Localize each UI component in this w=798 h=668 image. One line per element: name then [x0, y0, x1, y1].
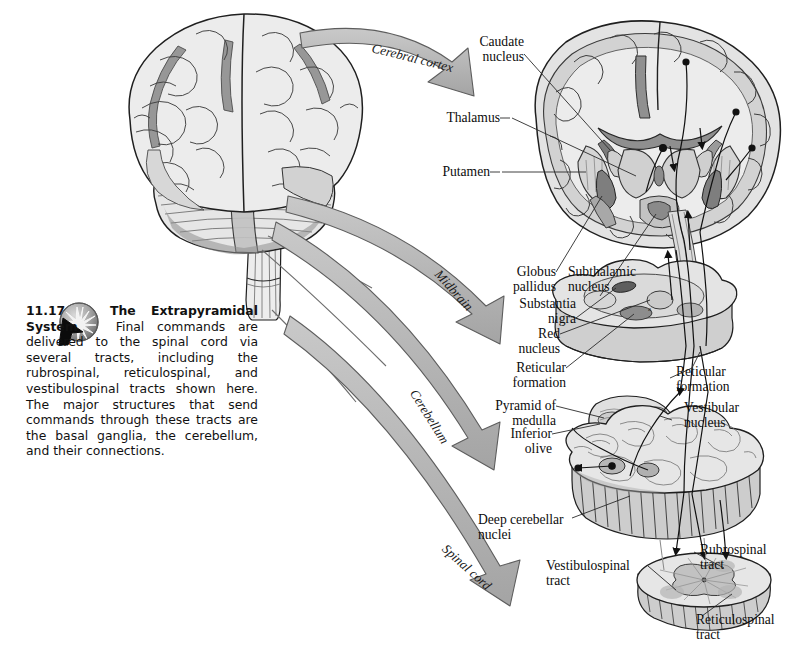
label-thalamus: Thalamus	[392, 110, 500, 125]
figure-number: 11.17	[26, 303, 65, 318]
label-reticular-formation-midbrain: Reticular formation	[468, 360, 566, 390]
label-vestibulospinal-tract: Vestibulospinal tract	[546, 558, 630, 588]
label-globus-pallidus: Globus pallidus	[470, 264, 556, 294]
label-reticular-formation-medulla: Reticular formation	[676, 364, 730, 394]
reticulospinal-tract-region	[718, 585, 742, 599]
figure-caption: 11.17 The Extrapyramidal System Final co…	[26, 303, 258, 459]
label-inferior-olive: Inferior olive	[468, 426, 552, 456]
label-substantia-nigra: Substantia nigra	[478, 296, 576, 326]
label-reticulospinal-tract: Reticulospinal tract	[696, 612, 775, 642]
figure-body-text: Final commands are delivered to the spin…	[26, 319, 258, 459]
label-pyramid-of-medulla: Pyramid of medulla	[458, 398, 556, 428]
label-vestibular-nucleus: Vestibular nucleus	[684, 400, 739, 430]
figure-page: a	[0, 0, 798, 668]
label-caudate-nucleus: Caudate nucleus	[396, 34, 524, 64]
label-putamen: Putamen	[382, 164, 490, 179]
label-deep-cerebellar-nuclei: Deep cerebellar nuclei	[478, 512, 564, 542]
label-rubrospinal-tract: Rubrospinal tract	[700, 542, 766, 572]
label-red-nucleus: Red nucleus	[484, 326, 560, 356]
label-subthalamic-nucleus: Subthalamic nucleus	[568, 264, 636, 294]
